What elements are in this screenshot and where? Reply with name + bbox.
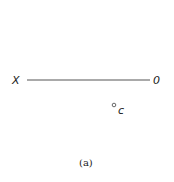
label-0: 0: [153, 74, 160, 87]
label-x: X: [11, 74, 20, 87]
diagram-canvas: X 0 c (a): [0, 0, 174, 182]
figure-caption: (a): [79, 157, 93, 168]
point-c-marker: [112, 103, 116, 107]
label-c: c: [118, 104, 124, 117]
